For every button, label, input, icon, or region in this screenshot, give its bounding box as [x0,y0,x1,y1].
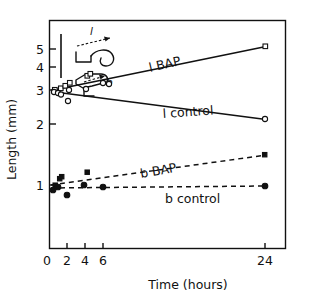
series-b-control: b control [50,182,268,206]
inset-upper-base-shape [76,52,91,62]
x-axis-title: Time (hours) [147,277,227,292]
series-l-control: l control [51,80,268,121]
data-point [65,98,70,103]
data-point [85,170,89,174]
data-point [263,44,268,49]
series-label-b-bap: b BAP [139,160,178,181]
y-axis-ticks [50,49,57,185]
y-tick-label-1: 1 [36,178,44,193]
data-point [66,87,71,92]
data-point [59,86,64,91]
x-tick-label-0: 0 [43,253,51,268]
x-tick-label-2: 2 [63,253,71,268]
data-point [83,86,88,91]
x-tick-label-24: 24 [257,253,273,268]
x-axis-tick-labels: 0 2 4 6 24 [43,253,273,268]
series-label-l-control: l control [162,102,214,121]
series-l-bap: l BAP [51,44,268,92]
series-label-l-bap: l BAP [147,53,182,75]
inset-upper-curl-shape [91,50,114,66]
y-tick-label-5: 5 [36,42,44,57]
inset-arrowhead-l [104,37,110,42]
data-point [81,182,87,188]
data-point [64,192,70,198]
data-point [63,84,68,89]
y-axis-title: Length (mm) [4,99,19,180]
data-point [58,92,63,97]
y-tick-label-2: 2 [36,117,44,132]
data-point [100,80,105,85]
x-axis-ticks [67,243,265,249]
x-tick-label-4: 4 [81,253,89,268]
chart-svg: 5 4 3 2 1 Length (mm) 0 2 4 6 24 Time (h… [0,0,319,301]
y-tick-label-3: 3 [36,83,44,98]
data-point [262,116,267,121]
data-point [100,184,106,190]
data-point [60,175,64,179]
inset-label-l: l [90,25,93,37]
series-l-control-fit-line [51,92,266,120]
y-axis-tick-labels: 5 4 3 2 1 [36,42,44,193]
data-point [263,153,267,157]
data-point [68,81,73,86]
x-tick-label-6: 6 [99,253,107,268]
data-point [55,184,61,190]
series-label-b-control: b control [165,191,220,206]
figure-container: 5 4 3 2 1 Length (mm) 0 2 4 6 24 Time (h… [0,0,319,301]
data-point [262,183,268,189]
data-point [88,72,93,77]
data-point [106,81,111,86]
y-tick-label-4: 4 [36,60,44,75]
